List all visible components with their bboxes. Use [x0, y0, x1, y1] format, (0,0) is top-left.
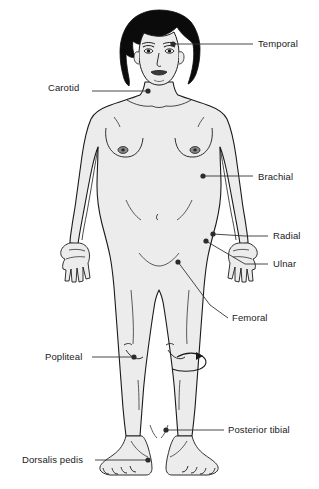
pulse-point-femoral[interactable]: [175, 259, 180, 264]
pulse-point-radial[interactable]: [210, 231, 215, 236]
label-brachial: Brachial: [258, 172, 293, 182]
label-dorsalis-pedis: Dorsalis pedis: [22, 455, 83, 465]
label-popliteal: Popliteal: [45, 352, 82, 362]
label-carotid: Carotid: [48, 83, 79, 93]
pulse-points-diagram: [0, 0, 319, 489]
pulse-point-temporal[interactable]: [170, 41, 175, 46]
pulse-point-popliteal[interactable]: [131, 354, 136, 359]
pulse-point-ulnar[interactable]: [203, 238, 208, 243]
label-femoral: Femoral: [232, 313, 268, 323]
label-ulnar: Ulnar: [273, 259, 296, 269]
mouth: [151, 71, 167, 76]
hand-left: [61, 243, 90, 282]
pulse-point-dorsalis-pedis[interactable]: [145, 457, 150, 462]
label-posterior-tibial: Posterior tibial: [228, 425, 290, 435]
face: [139, 32, 179, 85]
pulse-point-carotid[interactable]: [145, 88, 150, 93]
pulse-point-brachial[interactable]: [200, 173, 205, 178]
pulse-point-posterior-tibial[interactable]: [163, 427, 168, 432]
label-temporal: Temporal: [258, 39, 298, 49]
label-radial: Radial: [273, 231, 301, 241]
